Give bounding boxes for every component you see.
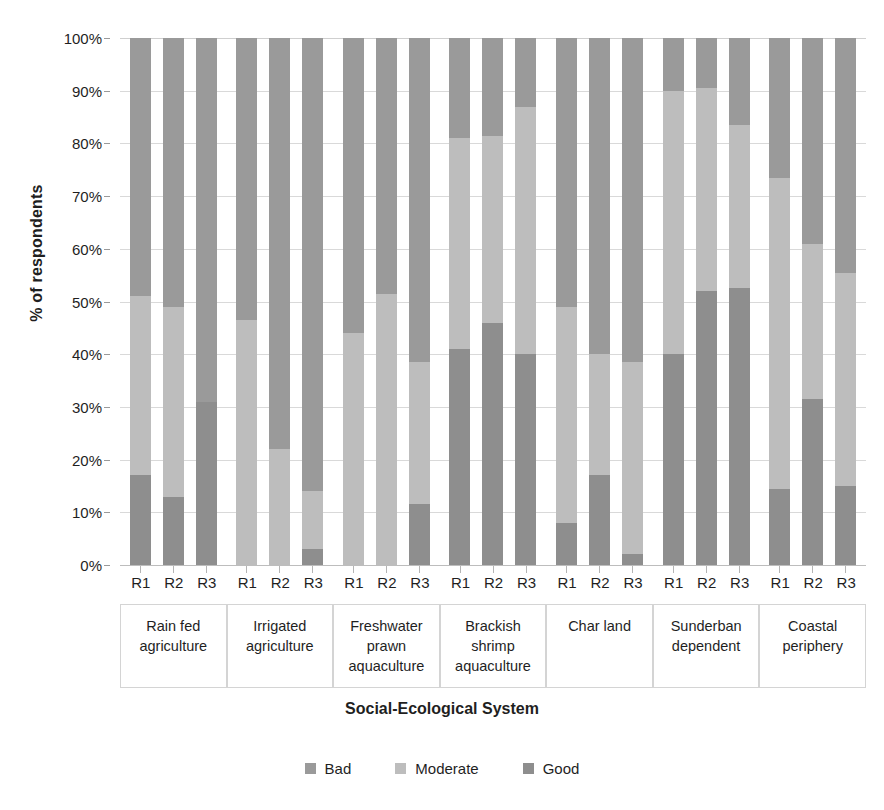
bar-segment-moderate[interactable] [130,296,151,475]
x-tick-mark [696,566,717,573]
bar-segment-moderate[interactable] [663,91,684,355]
bar-segment-bad[interactable] [589,38,610,354]
stacked-bar[interactable] [130,38,151,565]
bar-segment-good[interactable] [802,399,823,565]
bar-segment-moderate[interactable] [589,354,610,475]
y-axis-tick-labels: 0%10%20%30%40%50%60%70%80%90%100% [52,38,110,565]
bar-segment-bad[interactable] [769,38,790,178]
bar-segment-good[interactable] [130,475,151,565]
bar-segment-bad[interactable] [449,38,470,138]
bar-segment-bad[interactable] [376,38,397,294]
bar-segment-moderate[interactable] [802,244,823,399]
bar-segment-good[interactable] [589,475,610,565]
bar-segment-moderate[interactable] [556,307,577,523]
bar-segment-good[interactable] [409,504,430,565]
bar-segment-good[interactable] [622,554,643,565]
bar-segment-moderate[interactable] [449,138,470,349]
bar-segment-moderate[interactable] [163,307,184,497]
bar-segment-bad[interactable] [130,38,151,296]
category-group-label: Irrigatedagriculture [227,604,334,688]
bar-segment-moderate[interactable] [622,362,643,554]
stacked-bar[interactable] [589,38,610,565]
bar-segment-bad[interactable] [556,38,577,307]
bar-segment-good[interactable] [663,354,684,565]
bar-segment-moderate[interactable] [515,107,536,355]
bar-segment-moderate[interactable] [236,320,257,565]
bar-segment-moderate[interactable] [696,88,717,291]
stacked-bar[interactable] [343,38,364,565]
bar-segment-bad[interactable] [236,38,257,320]
category-label-text: Sunderbandependent [654,616,759,656]
bar-segment-bad[interactable] [622,38,643,362]
bar-segment-good[interactable] [515,354,536,565]
bar-segment-bad[interactable] [196,38,217,402]
stacked-bar[interactable] [376,38,397,565]
stacked-bar[interactable] [556,38,577,565]
bar-segment-bad[interactable] [515,38,536,107]
stacked-bar[interactable] [769,38,790,565]
bar-segment-bad[interactable] [696,38,717,88]
x-tick-mark [622,566,643,573]
stacked-bar[interactable] [196,38,217,565]
bar-segment-bad[interactable] [663,38,684,91]
bar-group [546,38,653,565]
bar-segment-bad[interactable] [302,38,323,491]
y-tick-label: 50% [72,293,102,310]
bar-segment-good[interactable] [196,402,217,565]
bar-segment-good[interactable] [835,486,856,565]
y-tick-mark [104,91,110,92]
x-tick-label-r3: R3 [720,574,760,591]
legend-item-bad[interactable]: Bad [305,760,352,777]
bar-segment-moderate[interactable] [729,125,750,288]
stacked-bar[interactable] [236,38,257,565]
bar-segment-moderate[interactable] [343,333,364,565]
bar-segment-good[interactable] [163,497,184,566]
stacked-bar[interactable] [663,38,684,565]
x-axis-title: Social-Ecological System [0,700,884,718]
bar-segment-good[interactable] [449,349,470,565]
legend-item-moderate[interactable]: Moderate [395,760,478,777]
stacked-bar[interactable] [696,38,717,565]
bar-segment-moderate[interactable] [482,136,503,323]
x-tick-mark [589,566,610,573]
stacked-bar[interactable] [269,38,290,565]
bar-segment-moderate[interactable] [769,178,790,489]
stacked-bar[interactable] [409,38,430,565]
category-group-label: Freshwaterprawnaquaculture [333,604,440,688]
bar-segment-bad[interactable] [802,38,823,244]
stacked-bar[interactable] [802,38,823,565]
stacked-bar[interactable] [482,38,503,565]
x-tick-mark [802,566,823,573]
bar-segment-bad[interactable] [163,38,184,307]
stacked-bar[interactable] [622,38,643,565]
x-tick-label-r3: R3 [613,574,653,591]
bar-segment-bad[interactable] [269,38,290,449]
bar-segment-bad[interactable] [409,38,430,362]
stacked-bar[interactable] [163,38,184,565]
bar-segment-bad[interactable] [729,38,750,125]
legend-item-good[interactable]: Good [523,760,580,777]
bar-segment-good[interactable] [769,489,790,565]
stacked-bar[interactable] [302,38,323,565]
bar-segment-moderate[interactable] [409,362,430,504]
bar-segment-moderate[interactable] [302,491,323,549]
bar-segment-bad[interactable] [343,38,364,333]
x-tick-label-r3: R3 [826,574,866,591]
bar-segment-good[interactable] [556,523,577,565]
category-group-label: Sunderbandependent [653,604,760,688]
bar-segment-moderate[interactable] [269,449,290,565]
stacked-bar[interactable] [729,38,750,565]
stacked-bar[interactable] [449,38,470,565]
bar-segment-good[interactable] [482,323,503,565]
bar-segment-good[interactable] [302,549,323,565]
bar-segment-moderate[interactable] [835,273,856,486]
bar-segment-good[interactable] [696,291,717,565]
bar-segment-moderate[interactable] [376,294,397,565]
bar-segment-bad[interactable] [482,38,503,135]
stacked-bar[interactable] [835,38,856,565]
stacked-bar[interactable] [515,38,536,565]
x-tick-label-r3: R3 [293,574,333,591]
bar-segment-good[interactable] [729,288,750,565]
category-group-label: Brackishshrimpaquaculture [440,604,547,688]
bar-segment-bad[interactable] [835,38,856,273]
